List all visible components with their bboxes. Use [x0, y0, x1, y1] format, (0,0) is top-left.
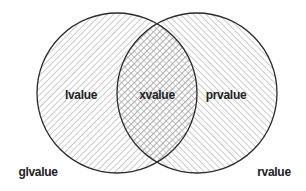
label-outer-right: rvalue: [257, 165, 291, 179]
label-outer-left: glvalue: [18, 165, 57, 179]
label-right-only: prvalue: [206, 88, 247, 102]
label-left-only: lvalue: [65, 88, 97, 102]
label-intersection: xvalue: [139, 88, 175, 102]
